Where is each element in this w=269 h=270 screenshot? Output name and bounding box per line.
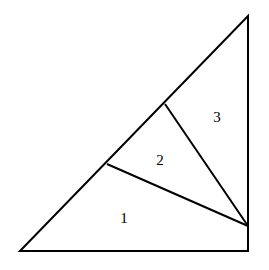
- region-label-3: 3: [213, 109, 221, 125]
- region-label-2: 2: [156, 152, 164, 168]
- region-label-1: 1: [120, 210, 128, 226]
- outer-triangle: [20, 16, 248, 251]
- triangle-diagram: 1 2 3: [0, 0, 269, 270]
